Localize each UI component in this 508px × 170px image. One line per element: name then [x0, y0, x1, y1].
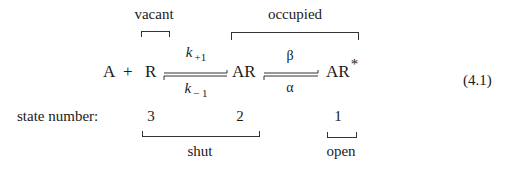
- species-AR-star: AR*: [326, 62, 358, 82]
- state-number-label: state number:: [17, 108, 98, 125]
- plus-sign: +: [123, 62, 133, 82]
- occupied-bracket: [231, 32, 359, 40]
- species-A: A: [103, 62, 115, 82]
- equilibrium-arrow-1-icon: [162, 70, 230, 82]
- rate-k-symbol: k: [186, 44, 193, 60]
- shut-bracket: [142, 131, 260, 137]
- open-bracket: [327, 132, 357, 138]
- equation-number: (4.1): [463, 72, 492, 89]
- species-R: R: [145, 62, 156, 82]
- rate-k-subscript: − 1: [193, 87, 207, 99]
- rate-k-minus-1: k− 1: [184, 80, 207, 99]
- state-2: 2: [236, 108, 244, 125]
- open-label: open: [326, 143, 355, 160]
- occupied-label: occupied: [268, 6, 322, 23]
- equilibrium-arrow-2-icon: [262, 70, 320, 82]
- species-AR-star-base: AR: [326, 62, 350, 81]
- vacant-label: vacant: [134, 6, 173, 23]
- rate-k-symbol: k: [184, 80, 191, 96]
- rate-alpha: α: [286, 80, 293, 96]
- star-icon: *: [351, 56, 359, 72]
- vacant-bracket: [141, 31, 170, 37]
- state-3: 3: [147, 108, 155, 125]
- rate-k-plus-1: k+1: [186, 44, 206, 63]
- species-AR: AR: [232, 62, 256, 82]
- rate-beta: β: [286, 48, 293, 64]
- rate-k-subscript: +1: [194, 51, 206, 63]
- state-1: 1: [334, 108, 342, 125]
- shut-label: shut: [187, 143, 212, 160]
